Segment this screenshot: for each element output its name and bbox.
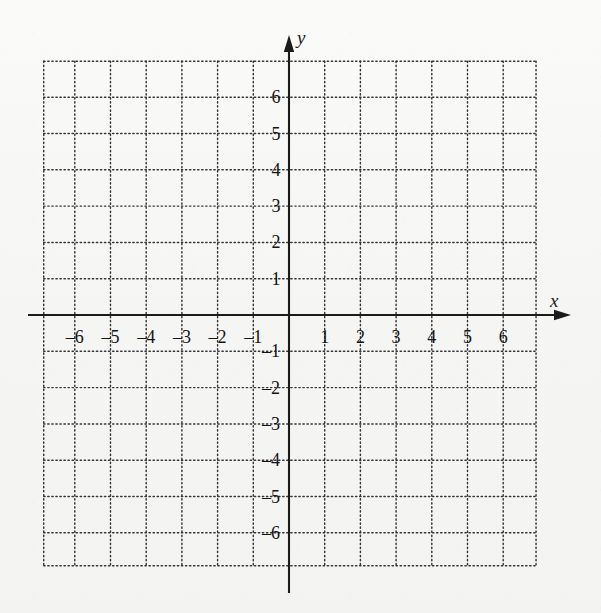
x-tick-label: –3 xyxy=(173,328,191,346)
y-axis-label: y xyxy=(297,28,305,47)
y-tick-label: –4 xyxy=(262,451,280,469)
y-tick-label: –1 xyxy=(262,342,280,360)
x-tick-label: –2 xyxy=(209,328,227,346)
axis-lines xyxy=(28,35,571,593)
x-tick-label: –6 xyxy=(66,328,84,346)
y-tick-label: 4 xyxy=(272,161,281,179)
graph-canvas xyxy=(0,0,601,613)
x-axis-arrowhead xyxy=(554,310,571,320)
y-axis-arrowhead xyxy=(284,35,294,52)
y-tick-label: 1 xyxy=(272,270,281,288)
x-tick-label: 5 xyxy=(463,328,472,346)
x-tick-label: –4 xyxy=(137,328,155,346)
x-tick-label: –5 xyxy=(102,328,120,346)
x-tick-label: 1 xyxy=(320,328,329,346)
y-tick-label: –5 xyxy=(262,488,280,506)
y-tick-label: –2 xyxy=(262,379,280,397)
x-tick-label: 6 xyxy=(499,328,508,346)
y-tick-label: 5 xyxy=(272,125,281,143)
x-tick-label: –1 xyxy=(244,328,262,346)
y-tick-label: 3 xyxy=(272,197,281,215)
x-tick-label: 2 xyxy=(356,328,365,346)
y-tick-label: 2 xyxy=(272,233,281,251)
x-tick-label: 3 xyxy=(392,328,401,346)
y-tick-label: 6 xyxy=(272,88,281,106)
coordinate-plane: x y –6–5–4–3–2–1123456 654321–1–2–3–4–5–… xyxy=(0,0,601,613)
y-tick-label: –3 xyxy=(262,415,280,433)
x-tick-label: 4 xyxy=(427,328,436,346)
y-tick-label: –6 xyxy=(262,524,280,542)
x-axis-label: x xyxy=(550,291,558,310)
